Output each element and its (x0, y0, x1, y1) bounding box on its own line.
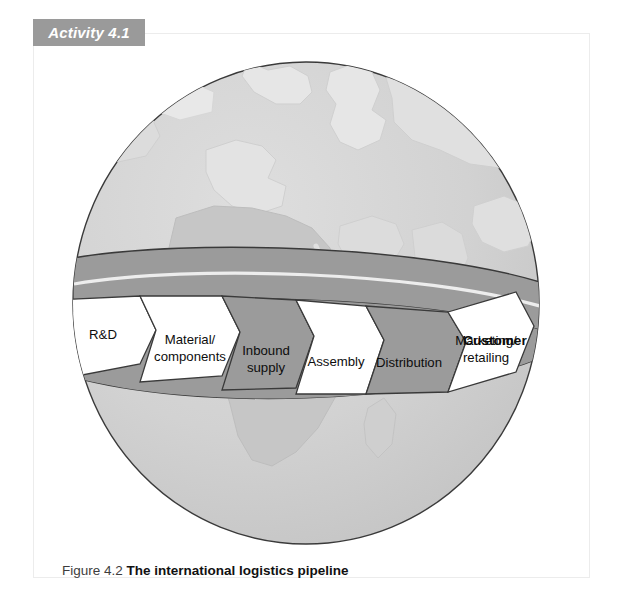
segment-label-assembly: Assembly (307, 354, 365, 369)
pipeline-band: R&D Material/ components Inbound supply … (56, 247, 540, 398)
page-background: Activity 4.1 (0, 0, 623, 612)
logistics-pipeline-figure: R&D Material/ components Inbound supply … (0, 0, 623, 612)
figure-caption: Figure 4.2 The international logistics p… (62, 563, 349, 578)
segment-label-material-components-line2: components (154, 349, 226, 364)
segment-label-rnd: R&D (89, 327, 117, 342)
figure-caption-title: The international logistics pipeline (127, 563, 349, 578)
segment-label-distribution: Distribution (376, 355, 442, 370)
segment-label-marketing-retailing-line2: retailing (463, 350, 509, 365)
segment-label-inbound-supply-line2: supply (247, 360, 286, 375)
segment-label-inbound-supply-line1: Inbound (242, 343, 290, 358)
segment-distribution (366, 306, 466, 394)
pipeline-endpoint-label-customer: Customer (463, 333, 527, 348)
figure-caption-number: Figure 4.2 (62, 563, 123, 578)
segment-label-material-components-line1: Material/ (165, 332, 216, 347)
